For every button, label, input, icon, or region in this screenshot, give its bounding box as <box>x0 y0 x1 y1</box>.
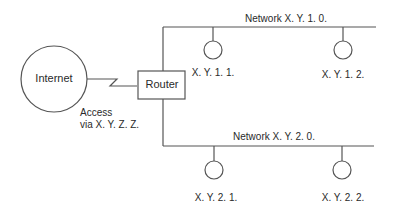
network-diagram: Internet Router Access via X. Y. Z. Z. N… <box>0 0 398 211</box>
host-2-2-label: X. Y. 2. 2. <box>322 192 364 203</box>
host-1-1-label: X. Y. 1. 1. <box>192 67 234 78</box>
host-icon <box>333 161 351 179</box>
internet-label: Internet <box>35 73 72 84</box>
wan-link <box>87 79 137 86</box>
host-icon <box>205 161 223 179</box>
host-1-2-label: X. Y. 1. 2. <box>322 69 364 80</box>
host-2-1-label: X. Y. 2. 1. <box>195 192 237 203</box>
host-icon <box>204 41 222 59</box>
access-label-line2: via X. Y. Z. Z. <box>80 119 139 130</box>
host-icon <box>334 41 352 59</box>
network-1-label: Network X. Y. 1. 0. <box>245 13 327 24</box>
router-label: Router <box>145 79 178 90</box>
diagram-lines <box>0 0 398 211</box>
access-label-line1: Access <box>80 107 112 118</box>
network-2-label: Network X. Y. 2. 0. <box>233 131 315 142</box>
